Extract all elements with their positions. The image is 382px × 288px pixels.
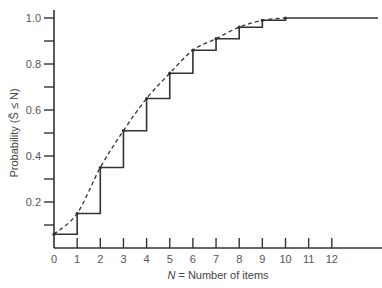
- data-point: [261, 19, 264, 22]
- x-tick-label: 1: [74, 253, 80, 265]
- y-tick-label: 0.4: [26, 150, 41, 162]
- data-point: [191, 49, 194, 52]
- x-tick-label: 5: [167, 253, 173, 265]
- data-point: [52, 233, 55, 236]
- cumulative-probability-chart: 0.20.40.60.81.00123456789101112 N = Numb…: [0, 0, 382, 288]
- y-tick-label: 0.2: [26, 196, 41, 208]
- x-tick-label: 7: [213, 253, 219, 265]
- data-point: [145, 97, 148, 100]
- x-tick-label: 9: [259, 253, 265, 265]
- x-tick-label: 2: [97, 253, 103, 265]
- data-point: [214, 37, 217, 40]
- data-point: [99, 166, 102, 169]
- x-tick-label: 12: [326, 253, 338, 265]
- axis-labels: N = Number of items Probability (S̃ ≤ N): [8, 88, 269, 281]
- y-tick-label: 0.8: [26, 58, 41, 70]
- x-tick-label: 6: [190, 253, 196, 265]
- data-point: [168, 72, 171, 75]
- x-axis-label: N = Number of items: [167, 269, 269, 281]
- data-point: [122, 129, 125, 132]
- y-tick-label: 0.6: [26, 104, 41, 116]
- y-axis-label: Probability (S̃ ≤ N): [8, 88, 20, 177]
- x-tick-label: 10: [279, 253, 291, 265]
- axes: 0.20.40.60.81.00123456789101112: [26, 10, 382, 265]
- dashed-curve: [54, 18, 286, 234]
- plot-area: [52, 16, 378, 235]
- data-point: [284, 16, 287, 19]
- x-tick-label: 4: [144, 253, 150, 265]
- x-tick-label: 3: [120, 253, 126, 265]
- x-tick-label: 8: [236, 253, 242, 265]
- y-tick-label: 1.0: [26, 12, 41, 24]
- data-point: [238, 26, 241, 29]
- step-line: [54, 18, 378, 234]
- x-tick-label: 0: [51, 253, 57, 265]
- x-tick-label: 11: [303, 253, 314, 265]
- data-point: [76, 212, 79, 215]
